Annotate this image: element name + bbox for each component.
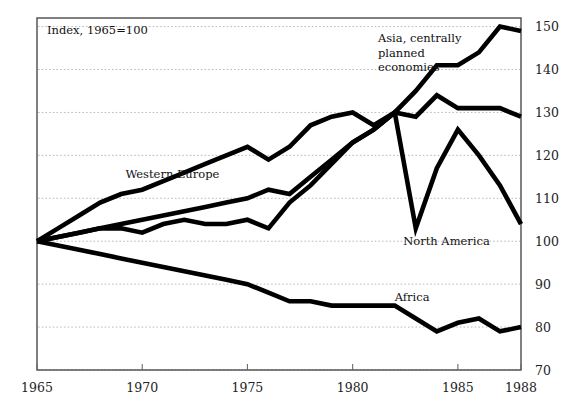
x-axis-labels: 196519701975198019851988 xyxy=(21,380,537,395)
x-tickmarks xyxy=(37,364,521,370)
chart-container: 1965197019751980198519887080901001101201… xyxy=(0,0,577,410)
y-tick-label-150: 150 xyxy=(535,19,559,34)
y-tick-label-110: 110 xyxy=(535,191,559,206)
annotation-asia-centrally: Asia, centrally xyxy=(377,31,462,45)
y-tick-label-90: 90 xyxy=(535,277,551,292)
x-tick-label-1980: 1980 xyxy=(337,380,369,395)
annotation-north-america: North America xyxy=(403,234,490,248)
x-tick-label-1965: 1965 xyxy=(21,380,53,395)
x-tick-label-1975: 1975 xyxy=(232,380,264,395)
annotation-africa: Africa xyxy=(394,290,430,304)
x-tick-label-1988: 1988 xyxy=(505,380,537,395)
series-line-north-america xyxy=(37,112,521,241)
series-line-africa xyxy=(37,241,521,331)
series-line-western-europe xyxy=(37,95,521,241)
annotation-economies: economies xyxy=(378,60,440,74)
y-tick-label-140: 140 xyxy=(535,62,559,77)
annotation-western-europe: Western Europe xyxy=(125,167,219,181)
y-tick-label-130: 130 xyxy=(535,105,559,120)
y-axis-labels: 708090100110120130140150 xyxy=(535,19,559,377)
y-tick-label-80: 80 xyxy=(535,320,551,335)
annotation-planned: planned xyxy=(378,46,426,60)
x-tick-label-1970: 1970 xyxy=(126,380,158,395)
y-tick-label-120: 120 xyxy=(535,148,559,163)
y-tick-label-100: 100 xyxy=(535,234,559,249)
line-chart: 1965197019751980198519887080901001101201… xyxy=(0,0,577,410)
x-tick-label-1985: 1985 xyxy=(442,380,474,395)
data-series-group xyxy=(37,27,521,332)
series-line-asia-centrally-planned-economies xyxy=(37,27,521,242)
y-tick-label-70: 70 xyxy=(535,363,551,378)
plot-title: Index, 1965=100 xyxy=(47,23,148,37)
